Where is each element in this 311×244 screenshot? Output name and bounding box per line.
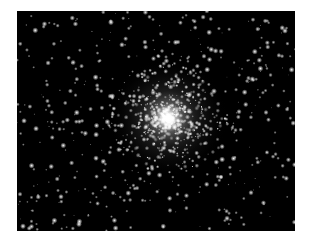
star-cluster-photo [17,11,295,231]
